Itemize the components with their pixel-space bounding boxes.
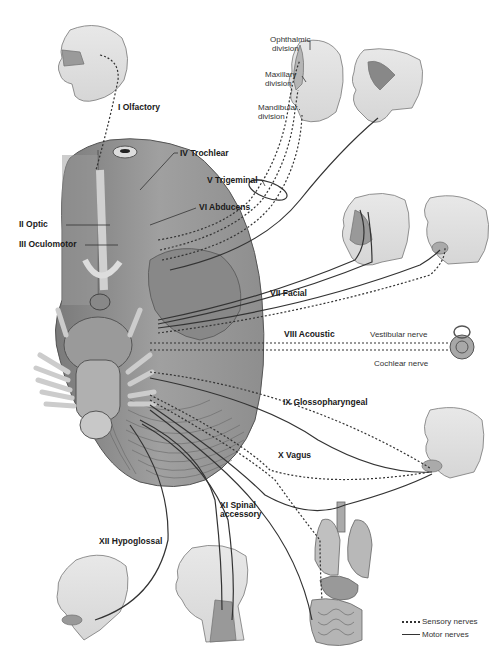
label-abducens: VI Abducens [199, 203, 250, 212]
label-hypoglossal: XII Hypoglossal [99, 537, 162, 546]
inner-ear [450, 326, 474, 359]
label-maxillary-line2: division [265, 80, 297, 89]
head-facial-muscles [352, 49, 422, 123]
label-facial: VII Facial [270, 289, 307, 298]
thoracic-abdominal-organs [310, 502, 372, 646]
label-olfactory: I Olfactory [118, 103, 160, 112]
diagram-artwork [0, 0, 504, 662]
head-facial-nerve [342, 193, 409, 265]
label-cochlear-nerve: Cochlear nerve [374, 360, 428, 369]
dashed-line-icon [402, 621, 420, 623]
label-acoustic: VIII Acoustic [284, 330, 335, 339]
label-mandibular-division: Mandibular division [258, 104, 298, 122]
label-optic: II Optic [19, 220, 48, 229]
label-ophthalmic-division: Ophthalmic division [270, 36, 310, 54]
head-olfactory [58, 26, 127, 102]
label-mandibular-line2: division [258, 113, 298, 122]
cranial-nerves-diagram: I Olfactory II Optic III Oculomotor IV T… [0, 0, 504, 662]
label-spinal-accessory: XI Spinal accessory [220, 501, 262, 520]
head-hypoglossal [57, 555, 128, 640]
head-spinal-accessory [176, 545, 248, 642]
legend-sensory-label: Sensory nerves [422, 617, 478, 626]
label-glossopharyngeal: IX Glossopharyngeal [283, 398, 368, 407]
label-trigeminal: V Trigeminal [207, 176, 258, 185]
solid-line-icon [402, 634, 420, 635]
label-oculomotor: III Oculomotor [19, 240, 77, 249]
legend-sensory: Sensory nerves [402, 617, 478, 626]
label-ophthalmic-line2: division [270, 45, 310, 54]
brain-base [36, 139, 264, 487]
legend-motor: Motor nerves [402, 630, 469, 639]
label-trochlear: IV Trochlear [180, 149, 229, 158]
label-spinal-accessory-line2: accessory [220, 510, 262, 519]
label-vestibular-nerve: Vestibular nerve [370, 331, 427, 340]
head-taste [424, 196, 488, 264]
label-vagus: X Vagus [278, 451, 311, 460]
head-glossopharyngeal [422, 408, 484, 478]
label-maxillary-division: Maxillary division [265, 71, 297, 89]
legend-motor-label: Motor nerves [422, 630, 469, 639]
